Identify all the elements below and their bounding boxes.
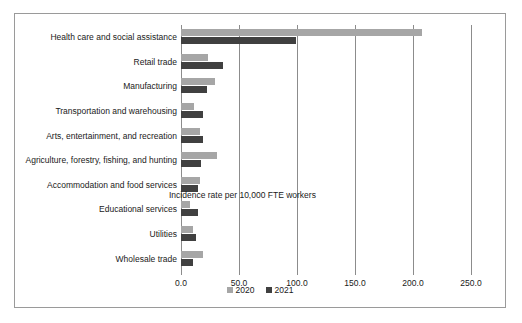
bar-2020 [181,177,200,184]
chart-category-row: Transportation and warehousing [181,99,471,124]
bar-2020 [181,78,215,85]
bar-2020 [181,103,194,110]
x-axis-tick [181,271,182,275]
legend-label: 2020 [236,285,255,295]
chart-category-row: Manufacturing [181,74,471,99]
bar-2021 [181,160,201,167]
bar-2020 [181,54,208,61]
chart-category-row: Wholesale trade [181,246,471,271]
bar-2021 [181,136,203,143]
bar-2021 [181,37,296,44]
chart-annotation: Incidence rate per 10,000 FTE workers [169,190,316,200]
chart-category-row: Educational services [181,197,471,222]
category-axis-label: Agriculture, forestry, fishing, and hunt… [25,155,177,165]
bar-2021 [181,234,196,241]
bar-2020 [181,226,193,233]
x-axis-tick [239,271,240,275]
bar-2021 [181,111,203,118]
chart-category-row: Arts, entertainment, and recreation [181,123,471,148]
chart-legend: 20202021 [15,285,505,295]
x-axis-tick [297,271,298,275]
category-axis-label: Accommodation and food services [47,180,177,190]
x-axis-tick [471,271,472,275]
category-axis-label: Educational services [99,204,177,214]
x-axis-tick [355,271,356,275]
chart-category-row: Agriculture, forestry, fishing, and hunt… [181,148,471,173]
category-axis-label: Transportation and warehousing [55,106,177,116]
chart-frame: 0.050.0100.0150.0200.0250.0Health care a… [14,13,506,308]
legend-item[interactable]: 2021 [266,285,294,295]
bar-2021 [181,209,198,216]
bar-2021 [181,259,193,266]
x-axis-tick [413,271,414,275]
category-axis-label: Utilities [150,229,177,239]
legend-swatch-icon [266,287,272,293]
bar-2020 [181,128,200,135]
category-axis-label: Manufacturing [123,81,177,91]
gridline [471,25,472,271]
bar-2020 [181,152,217,159]
category-axis-label: Wholesale trade [116,254,177,264]
legend-label: 2021 [275,285,294,295]
bar-2021 [181,62,223,69]
category-axis-label: Health care and social assistance [50,32,177,42]
chart-category-row: Retail trade [181,50,471,75]
bar-2020 [181,201,190,208]
category-axis-label: Retail trade [134,57,177,67]
chart-category-row: Health care and social assistance [181,25,471,50]
category-axis-label: Arts, entertainment, and recreation [46,131,177,141]
legend-swatch-icon [227,287,233,293]
plot-area: 0.050.0100.0150.0200.0250.0Health care a… [181,25,471,271]
chart-category-row: Utilities [181,222,471,247]
bar-2021 [181,86,207,93]
legend-item[interactable]: 2020 [227,285,255,295]
bar-2020 [181,29,422,36]
bar-2020 [181,251,203,258]
